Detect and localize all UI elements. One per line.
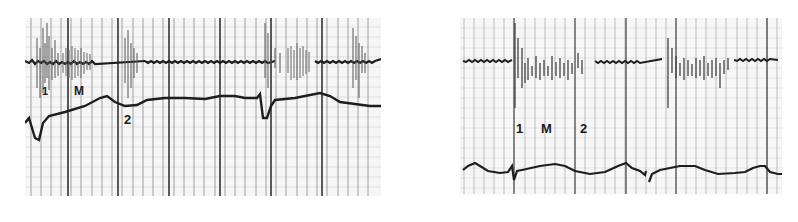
right-recording-panel: [460, 18, 782, 194]
left-label-s2: 2: [124, 112, 131, 127]
right-label-m: M: [541, 121, 552, 136]
left-label-s1: 1: [42, 85, 48, 97]
right-label-s1: 1: [516, 121, 523, 136]
left-recording-panel: [25, 18, 381, 196]
left-tracing-chart: [25, 18, 381, 196]
right-label-s2: 2: [580, 121, 587, 136]
left-label-m: M: [74, 84, 84, 98]
right-tracing-chart: [460, 18, 782, 194]
